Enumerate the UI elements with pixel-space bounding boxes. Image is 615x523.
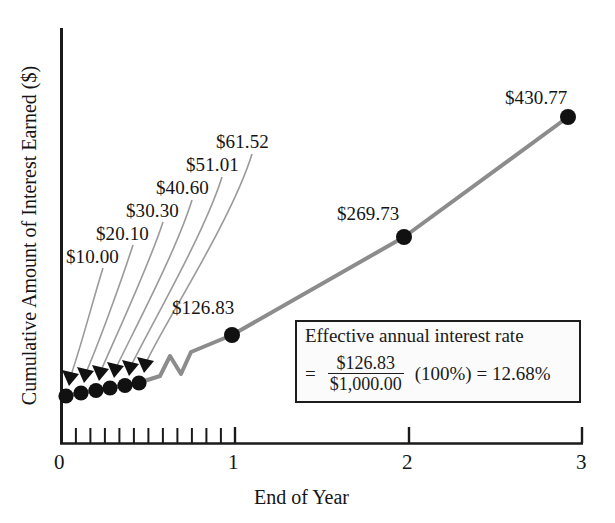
- annotation-title: Effective annual interest rate: [305, 325, 524, 347]
- data-point: [102, 380, 117, 395]
- x-tick-label-2: 2: [402, 450, 413, 475]
- rate-fraction: $126.83 $1,000.00: [328, 354, 404, 393]
- effective-rate-annotation-box: Effective annual interest rate = $126.83…: [295, 320, 581, 403]
- x-tick-label-3: 3: [576, 450, 587, 475]
- interest-growth-chart: Cumulative Amount of Interest Earned ($)…: [0, 0, 615, 523]
- callout-label-10: $10.00: [66, 246, 119, 268]
- point-label-430: $430.77: [505, 87, 567, 109]
- data-point: [396, 229, 412, 245]
- fraction-denominator: $1,000.00: [328, 373, 404, 393]
- annotation-equation: = $126.83 $1,000.00 (100%) = 12.68%: [305, 354, 551, 393]
- point-label-126: $126.83: [172, 297, 234, 319]
- x-tick-label-0: 0: [54, 450, 65, 475]
- data-point: [88, 383, 103, 398]
- data-point: [224, 327, 240, 343]
- x-axis-major-ticks: [62, 427, 583, 443]
- callout-label-30: $30.30: [126, 200, 179, 222]
- equals-sign: =: [305, 363, 316, 385]
- data-point: [58, 388, 73, 403]
- x-tick-label-1: 1: [228, 450, 239, 475]
- data-point: [117, 378, 132, 393]
- fraction-numerator: $126.83: [334, 354, 397, 373]
- y-axis-title: Cumulative Amount of Interest Earned ($): [18, 21, 41, 451]
- callout-label-51: $51.01: [186, 154, 239, 176]
- annotation-result: (100%) = 12.68%: [415, 363, 551, 385]
- data-point: [73, 385, 88, 400]
- data-point: [131, 375, 146, 390]
- x-axis-title: End of Year: [254, 486, 349, 509]
- point-label-269: $269.73: [337, 203, 399, 225]
- data-point: [560, 109, 576, 125]
- callout-label-61: $61.52: [216, 131, 269, 153]
- x-axis-minor-ticks: [76, 428, 221, 443]
- callout-label-40: $40.60: [156, 177, 209, 199]
- callout-label-20: $20.10: [96, 223, 149, 245]
